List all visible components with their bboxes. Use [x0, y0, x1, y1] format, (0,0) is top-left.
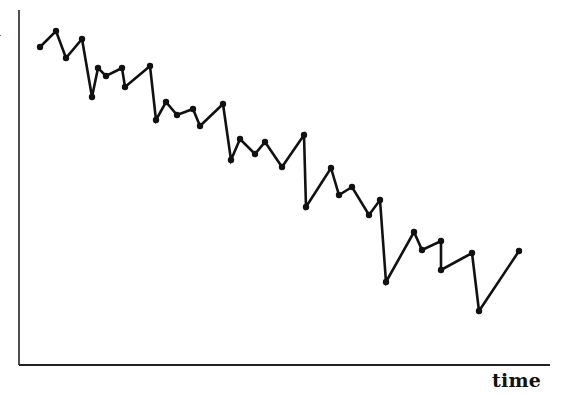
data-point-marker [262, 139, 268, 145]
y-axis-label-fragment: l [0, 18, 1, 40]
data-point-marker [122, 84, 128, 90]
data-point-marker [63, 55, 69, 61]
data-point-marker [147, 63, 153, 69]
data-point-marker [79, 36, 85, 42]
data-point-marker [366, 212, 372, 218]
data-point-marker [119, 65, 125, 71]
line-chart [0, 0, 561, 396]
data-point-marker [190, 106, 196, 112]
data-point-marker [303, 204, 309, 210]
data-point-marker [103, 73, 109, 79]
data-point-marker [469, 250, 475, 256]
data-point-marker [383, 279, 389, 285]
data-point-marker [37, 44, 43, 50]
data-point-marker [95, 65, 101, 71]
data-point-marker [163, 99, 169, 105]
data-line [40, 31, 519, 311]
data-point-marker [279, 164, 285, 170]
data-point-marker [252, 151, 258, 157]
data-point-marker [438, 267, 444, 273]
data-point-marker [328, 165, 334, 171]
data-point-marker [301, 132, 307, 138]
data-point-marker [377, 197, 383, 203]
data-point-marker [336, 192, 342, 198]
x-axis-label: time [492, 369, 541, 391]
data-point-marker [53, 28, 59, 34]
data-point-marker [476, 308, 482, 314]
data-point-marker [197, 123, 203, 129]
data-point-marker [220, 101, 226, 107]
data-point-marker [349, 184, 355, 190]
data-point-marker [237, 136, 243, 142]
data-point-marker [419, 247, 425, 253]
data-point-marker [411, 229, 417, 235]
data-point-marker [228, 157, 234, 163]
data-markers [37, 28, 522, 314]
data-point-marker [153, 117, 159, 123]
data-point-marker [89, 94, 95, 100]
data-point-marker [516, 248, 522, 254]
data-point-marker [174, 112, 180, 118]
data-point-marker [438, 238, 444, 244]
